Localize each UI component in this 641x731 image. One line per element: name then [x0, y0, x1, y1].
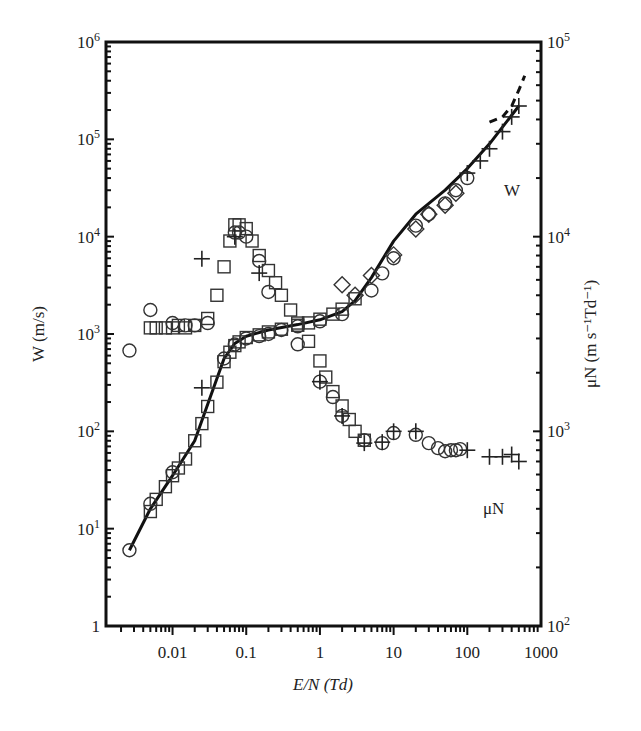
- series: [123, 226, 467, 458]
- square-marker: [314, 355, 326, 367]
- left-y-axis-title: W (m/s): [29, 306, 48, 362]
- series: [194, 229, 527, 470]
- x-tick-label: 1: [316, 643, 325, 662]
- circle-marker: [422, 208, 435, 221]
- left-y-tick-label: 105: [77, 127, 100, 149]
- left-y-axis-ticks: 1101102103104105106: [77, 30, 114, 636]
- circle-marker: [201, 317, 214, 330]
- x-tick-label: 100: [455, 643, 481, 662]
- circle-marker: [262, 285, 275, 298]
- right-y-axis-ticks: 102103104105: [533, 30, 570, 636]
- x-tick-label: 0.01: [158, 643, 188, 662]
- left-y-tick-label: 104: [77, 225, 100, 247]
- annotation-mun: μN: [483, 499, 504, 518]
- series: [123, 172, 474, 557]
- diamond-marker: [334, 277, 350, 293]
- series: [334, 185, 464, 303]
- left-y-tick-label: 1: [92, 617, 101, 636]
- square-marker: [211, 289, 223, 301]
- left-y-tick-label: 101: [77, 517, 100, 539]
- x-tick-label: 0.1: [236, 643, 257, 662]
- circle-marker: [188, 319, 201, 332]
- series: [194, 98, 527, 396]
- right-y-tick-label: 105: [547, 30, 570, 52]
- x-axis-title: E/N (Td): [292, 675, 353, 694]
- x-tick-label: 1000: [524, 643, 558, 662]
- left-y-tick-label: 103: [77, 322, 100, 344]
- circle-marker: [123, 344, 136, 357]
- square-marker: [218, 261, 230, 273]
- square-marker: [275, 289, 287, 301]
- left-y-tick-label: 106: [77, 30, 100, 52]
- right-y-tick-label: 102: [547, 614, 570, 636]
- chart: 0.010.11101001000 1101102103104105106 10…: [0, 0, 641, 731]
- right-y-axis-title: μN (m s⁻¹Td⁻¹): [581, 280, 600, 388]
- circle-marker: [365, 284, 378, 297]
- x-tick-label: 10: [385, 643, 402, 662]
- left-y-tick-label: 102: [77, 419, 100, 441]
- right-y-tick-label: 103: [547, 419, 570, 441]
- square-marker: [262, 265, 274, 277]
- data-series: [123, 76, 527, 557]
- series: [144, 293, 361, 518]
- square-marker: [285, 304, 297, 316]
- circle-marker: [144, 304, 157, 317]
- x-axis-ticks: 0.010.11101001000: [121, 626, 558, 662]
- right-y-tick-label: 104: [547, 225, 570, 247]
- annotation-w: W: [504, 181, 521, 200]
